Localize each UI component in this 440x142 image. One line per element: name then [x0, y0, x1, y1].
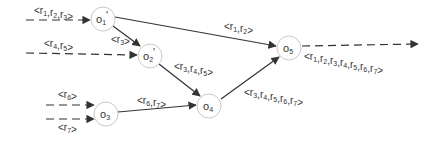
- node-o4: o4: [197, 94, 221, 118]
- node-o3: o3: [94, 102, 118, 126]
- node-o2-prime: o2': [138, 44, 162, 68]
- label-o3-o4: <r6,r7>: [137, 95, 166, 110]
- label-o4-o5: <r3,r4,r5,r6,r7>: [244, 87, 303, 108]
- label-input-o3-r7: <r7>: [58, 122, 77, 135]
- label-o1p-o2p: <r3>: [111, 34, 130, 47]
- diagram-svg: <r1,r2,r3> <r4,r5> <r3> <r1,r2> <r3,r4,r…: [0, 0, 440, 142]
- label-o2p-o4: <r3,r4,r5>: [174, 61, 213, 78]
- diagram-canvas: <r1,r2,r3> <r4,r5> <r3> <r1,r2> <r3,r4,r…: [0, 0, 440, 142]
- label-input-o3-r6: <r6>: [58, 89, 77, 102]
- edge-o5-output: [302, 44, 418, 46]
- node-o5: o5: [277, 36, 301, 60]
- nodes: o1' o2' o3 o4 o5: [91, 7, 301, 126]
- edge-input-o2p: [26, 53, 137, 55]
- label-o1p-o5: <r1,r2>: [224, 21, 253, 36]
- label-o5-output: <r1,r2,r3,r4,r5,r6,r7>: [304, 51, 383, 76]
- node-o1-prime: o1': [91, 7, 115, 31]
- label-input-o2p: <r4,r5>: [44, 38, 73, 53]
